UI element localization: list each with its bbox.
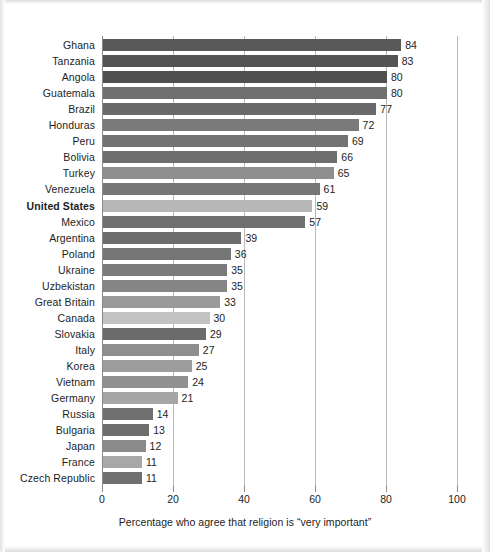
bar	[103, 280, 227, 292]
x-tick-100	[457, 486, 458, 492]
plot-area: Ghana84Tanzania83Angola80Guatemala80Braz…	[102, 36, 457, 486]
bar	[103, 55, 398, 67]
bar	[103, 392, 178, 404]
bar	[103, 376, 188, 388]
bar	[103, 183, 320, 195]
bar	[103, 200, 312, 212]
bar	[103, 360, 192, 372]
bar-row: Czech Republic11	[102, 469, 457, 487]
bar	[103, 248, 231, 260]
x-axis-caption: Percentage who agree that religion is “v…	[0, 516, 490, 528]
x-tick-60	[315, 486, 316, 492]
x-tick-80	[386, 486, 387, 492]
x-tick-label-40: 40	[238, 493, 250, 505]
bar	[103, 151, 337, 163]
bar	[103, 216, 305, 228]
bar	[103, 167, 334, 179]
bar-value-label: 11	[146, 469, 157, 487]
bar	[103, 456, 142, 468]
chart-page: Ghana84Tanzania83Angola80Guatemala80Braz…	[0, 0, 490, 552]
bar	[103, 408, 153, 420]
x-tick-label-60: 60	[309, 493, 321, 505]
bar	[103, 472, 142, 484]
x-tick-label-20: 20	[167, 493, 179, 505]
bar	[103, 264, 227, 276]
bar-chart: Ghana84Tanzania83Angola80Guatemala80Braz…	[0, 0, 490, 552]
x-tick-20	[173, 486, 174, 492]
bar	[103, 135, 348, 147]
bar	[103, 103, 376, 115]
bar-rows: Ghana84Tanzania83Angola80Guatemala80Braz…	[102, 36, 457, 486]
x-tick-40	[244, 486, 245, 492]
bar	[103, 312, 210, 324]
bar	[103, 119, 359, 131]
bar	[103, 424, 149, 436]
bar	[103, 232, 241, 244]
x-tick-label-80: 80	[380, 493, 392, 505]
bar	[103, 344, 199, 356]
bar	[103, 71, 387, 83]
bar	[103, 440, 146, 452]
bar	[103, 87, 387, 99]
bar	[103, 296, 220, 308]
bar	[103, 39, 401, 51]
gridline-100	[457, 36, 458, 486]
bar	[103, 328, 206, 340]
category-label: Czech Republic	[20, 469, 95, 487]
x-axis: 020406080100	[102, 486, 457, 487]
x-tick-label-100: 100	[448, 493, 466, 505]
x-tick-label-0: 0	[99, 493, 105, 505]
x-tick-0	[102, 486, 103, 492]
